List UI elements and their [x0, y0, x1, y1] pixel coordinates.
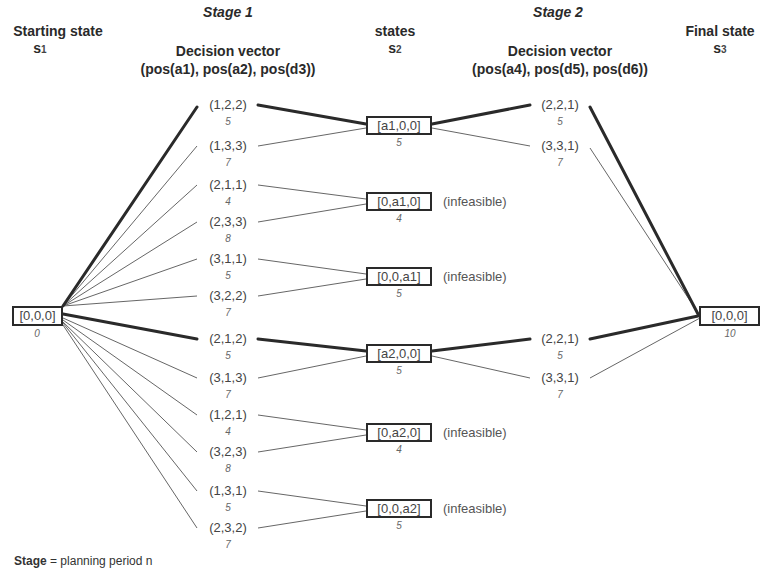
footer-legend: Stage = planning period n: [14, 554, 152, 568]
stage1-decision-cost: 4: [193, 196, 263, 207]
s2-state-node: [0,0,a1]: [366, 267, 432, 286]
states-symbol: s2: [375, 40, 415, 56]
stage1-decision: (3,1,1): [193, 251, 263, 266]
stage1-decision-cost: 5: [193, 350, 263, 361]
s2-state-cost: 4: [364, 213, 434, 224]
start-state-cost: 0: [2, 328, 72, 339]
decision-vector-2-title: Decision vector: [460, 43, 660, 59]
s2-state-node: [0,a1,0]: [366, 192, 432, 211]
s2-state-cost: 5: [364, 520, 434, 531]
stage1-decision: (1,2,1): [193, 407, 263, 422]
states-title: states: [355, 23, 435, 39]
infeasible-label: (infeasible): [443, 269, 507, 284]
s2-state-cost: 5: [364, 365, 434, 376]
stage1-decision: (2,3,2): [193, 520, 263, 535]
final-state-title: Final state: [675, 23, 765, 39]
stage1-decision-cost: 7: [193, 307, 263, 318]
stage1-decision-cost: 5: [193, 116, 263, 127]
infeasible-label: (infeasible): [443, 425, 507, 440]
stage1-decision-cost: 7: [193, 539, 263, 550]
s2-state-node: [a2,0,0]: [366, 344, 432, 363]
final-state-symbol: s3: [700, 40, 740, 56]
stage1-decision: (3,1,3): [193, 370, 263, 385]
final-state-node: [0,0,0]: [699, 306, 760, 326]
stage1-decision: (3,2,3): [193, 444, 263, 459]
stage1-decision-cost: 5: [193, 502, 263, 513]
stage1-decision-cost: 8: [193, 233, 263, 244]
stage2-decision: (3,3,1): [525, 370, 595, 385]
stage1-decision: (2,1,2): [193, 331, 263, 346]
stage1-decision: (1,2,2): [193, 97, 263, 112]
stage2-decision: (2,2,1): [525, 97, 595, 112]
stage-2-title: Stage 2: [518, 4, 598, 20]
stage1-decision: (1,3,3): [193, 138, 263, 153]
stage2-decision-cost: 5: [525, 350, 595, 361]
stage1-decision: (2,3,3): [193, 214, 263, 229]
stage1-decision-cost: 8: [193, 463, 263, 474]
decision-vector-2-args: (pos(a4), pos(d5), pos(d6)): [445, 61, 675, 77]
stage1-decision-cost: 7: [193, 157, 263, 168]
infeasible-label: (infeasible): [443, 194, 507, 209]
stage1-decision-cost: 7: [193, 389, 263, 400]
s2-state-cost: 5: [364, 288, 434, 299]
final-state-cost: 10: [695, 328, 765, 339]
s2-state-node: [0,a2,0]: [366, 423, 432, 442]
s2-state-node: [a1,0,0]: [366, 116, 432, 135]
infeasible-label: (infeasible): [443, 501, 507, 516]
stage2-decision: (2,2,1): [525, 331, 595, 346]
stage2-decision: (3,3,1): [525, 138, 595, 153]
stage1-decision-cost: 5: [193, 270, 263, 281]
stage1-decision: (3,2,2): [193, 288, 263, 303]
stage1-decision: (1,3,1): [193, 483, 263, 498]
stage2-decision-cost: 7: [525, 157, 595, 168]
start-state-node: [0,0,0]: [12, 306, 63, 326]
stage-1-title: Stage 1: [188, 4, 268, 20]
starting-state-symbol: s1: [20, 40, 60, 56]
stage1-decision: (2,1,1): [193, 177, 263, 192]
stage2-decision-cost: 7: [525, 389, 595, 400]
s2-state-node: [0,0,a2]: [366, 499, 432, 518]
starting-state-title: Starting state: [4, 23, 112, 39]
stage1-decision-cost: 4: [193, 426, 263, 437]
stage2-decision-cost: 5: [525, 116, 595, 127]
decision-vector-1-args: (pos(a1), pos(a2), pos(d3)): [113, 61, 343, 77]
s2-state-cost: 5: [364, 137, 434, 148]
s2-state-cost: 4: [364, 444, 434, 455]
decision-vector-1-title: Decision vector: [128, 43, 328, 59]
